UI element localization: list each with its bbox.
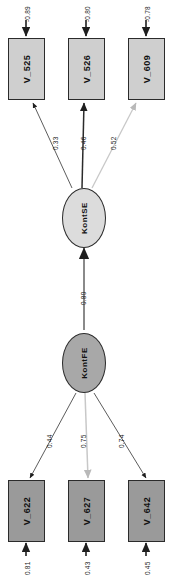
observed-node-v642-label: V_642 (142, 497, 152, 526)
residual-label-v642: 0.45 (144, 562, 151, 575)
observed-node-v609[interactable]: V_609 (128, 38, 165, 100)
observed-node-v526[interactable]: V_526 (68, 38, 105, 100)
loading-label-kontfe-v627: 0.75 (80, 435, 87, 448)
residual-label-v525: -0.89 (24, 6, 31, 22)
loading-edge-kontfe-v622 (30, 393, 76, 478)
latent-node-kontse-label: KontSE (80, 202, 89, 234)
loading-label-kontse-v526: 0.46 (80, 137, 87, 150)
observed-node-v622-label: V_622 (22, 497, 32, 526)
observed-node-v622[interactable]: V_622 (8, 480, 45, 542)
latent-node-kontse[interactable]: KontSE (62, 188, 106, 248)
loading-label-kontse-v609: 0.52 (110, 137, 117, 150)
residual-label-v622: 0.81 (24, 562, 31, 575)
loading-label-kontfe-v642: 0.74 (118, 435, 125, 448)
residual-label-v526: -0.80 (84, 6, 91, 22)
observed-node-v525[interactable]: V_525 (8, 38, 45, 100)
residual-label-v609: -0.78 (144, 6, 151, 22)
observed-node-v525-label: V_525 (22, 55, 32, 84)
latent-node-kontfe[interactable]: KontFE (62, 333, 106, 393)
observed-node-v609-label: V_609 (142, 55, 152, 84)
observed-node-v642[interactable]: V_642 (128, 480, 165, 542)
observed-node-v627[interactable]: V_627 (68, 480, 105, 542)
loading-label-kontfe-v622: 0.44 (46, 435, 53, 448)
latent-node-kontfe-label: KontFE (80, 347, 89, 378)
residual-label-v627: 0.43 (84, 562, 91, 575)
observed-node-v526-label: V_526 (82, 55, 92, 84)
observed-node-v627-label: V_627 (82, 497, 92, 526)
loading-label-kontse-v525: 0.33 (52, 137, 59, 150)
sem-path-diagram: V_525 V_526 V_609 V_622 V_627 V_642 Kont… (0, 0, 179, 578)
structural-label-kontfe-kontse: 0.80 (80, 292, 87, 305)
